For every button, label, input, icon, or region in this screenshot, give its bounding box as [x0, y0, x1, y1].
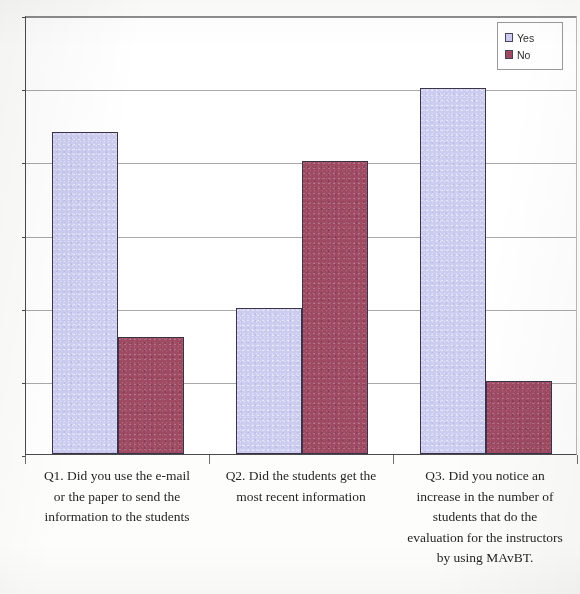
category-label-q2: Q2. Did the students get themost recent … [203, 466, 399, 507]
category-label-line: most recent information [203, 487, 399, 508]
category-label-q3: Q3. Did you notice anincrease in the num… [387, 466, 580, 569]
bar-yes-q1 [52, 132, 118, 454]
category-tick [209, 455, 210, 464]
bar-yes-q2 [236, 308, 302, 454]
legend-label-yes: Yes [517, 32, 534, 44]
y-tick-mark [22, 90, 26, 91]
category-label-line: Q3. Did you notice an [387, 466, 580, 487]
bar-yes-q3 [420, 88, 486, 454]
legend-item-no[interactable]: No [505, 46, 557, 63]
category-label-q1: Q1. Did you use the e-mailor the paper t… [19, 466, 215, 528]
category-label-line: or the paper to send the [19, 487, 215, 508]
legend-swatch-yes [505, 33, 513, 42]
y-tick-mark [22, 237, 26, 238]
legend-swatch-no [505, 50, 513, 59]
bar-chart-figure: 051015202530 Q1. Did you use the e-mailo… [0, 0, 580, 594]
gridline [26, 90, 576, 91]
category-label-line: students that do the [387, 507, 580, 528]
gridline [26, 17, 576, 18]
category-label-line: by using MAvBT. [387, 548, 580, 569]
y-tick-mark [22, 383, 26, 384]
category-label-line: evaluation for the instructors [387, 528, 580, 549]
plot-area [25, 16, 577, 455]
y-tick-mark [22, 310, 26, 311]
category-label-line: increase in the number of [387, 487, 580, 508]
bar-no-q2 [302, 161, 368, 454]
legend-label-no: No [517, 49, 530, 61]
category-tick [577, 455, 578, 464]
category-label-line: Q1. Did you use the e-mail [19, 466, 215, 487]
category-label-line: Q2. Did the students get the [203, 466, 399, 487]
category-tick [393, 455, 394, 464]
y-tick-mark [22, 163, 26, 164]
category-tick [25, 455, 26, 464]
y-tick-mark [22, 17, 26, 18]
legend-item-yes[interactable]: Yes [505, 29, 557, 46]
bar-no-q3 [486, 381, 552, 454]
bar-no-q1 [118, 337, 184, 454]
category-label-line: information to the students [19, 507, 215, 528]
chart-legend: Yes No [497, 22, 563, 70]
